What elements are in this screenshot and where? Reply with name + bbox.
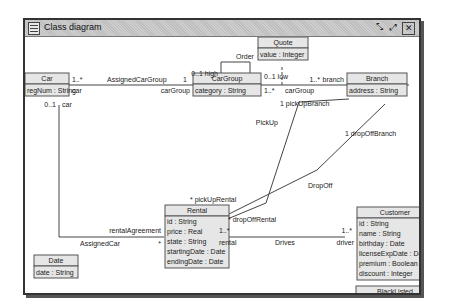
svg-text:discount : Integer: discount : Integer (359, 270, 413, 278)
svg-text:1: 1 (183, 76, 187, 83)
svg-text:1 dropOffBranch: 1 dropOffBranch (345, 130, 396, 138)
svg-text:AssignedCarGroup: AssignedCarGroup (107, 76, 167, 84)
diagram-canvas[interactable]: Car regNum : String CarGroup category : … (25, 37, 419, 293)
svg-text:category : String: category : String (195, 87, 246, 95)
svg-text:car: car (62, 101, 72, 108)
restore-icon[interactable]: ⤡ (374, 22, 385, 33)
title-bar[interactable]: Class diagram ⤡ ⤢ ✕ (25, 20, 419, 37)
svg-text:Customer: Customer (380, 209, 411, 216)
class-blacklisted[interactable]: BlackListed blackListedDate : Date (356, 286, 419, 293)
svg-text:price : Real: price : Real (167, 228, 203, 236)
svg-text:birthday : Date: birthday : Date (359, 240, 405, 248)
svg-text:AssignedCar: AssignedCar (80, 240, 121, 248)
class-rental[interactable]: Rental id : String price : Real state : … (165, 205, 229, 268)
svg-text:DropOff: DropOff (308, 182, 332, 190)
svg-text:driver: driver (336, 239, 354, 246)
svg-text:1..*: 1..* (264, 87, 275, 94)
svg-text:Branch: Branch (366, 75, 388, 82)
svg-text:state : String: state : String (167, 238, 206, 246)
maximize-icon[interactable]: ⤢ (388, 22, 399, 33)
class-date[interactable]: Date date : String (34, 255, 78, 278)
svg-text:1..*: 1..* (219, 227, 230, 234)
close-icon[interactable]: ✕ (402, 22, 415, 35)
svg-text:* pickUpRental: * pickUpRental (190, 196, 237, 204)
svg-text:regNum : String: regNum : String (27, 87, 76, 95)
svg-text:value : Integer: value : Integer (260, 51, 305, 59)
class-quote[interactable]: Quote value : Integer (258, 37, 308, 60)
svg-text:1..*: 1..* (309, 76, 320, 83)
svg-text:0..1: 0..1 (44, 101, 56, 108)
svg-text:1..*: 1..* (341, 227, 352, 234)
svg-text:1 pickUpBranch: 1 pickUpBranch (280, 100, 330, 108)
window-title: Class diagram (44, 22, 102, 32)
svg-text:* dropOffRental: * dropOffRental (228, 216, 277, 224)
svg-text:date : String: date : String (36, 269, 74, 277)
svg-text:id : String: id : String (167, 218, 197, 226)
svg-text:1..*: 1..* (72, 76, 83, 83)
svg-text:branch: branch (323, 76, 345, 83)
svg-text:premium : Boolean: premium : Boolean (359, 260, 418, 268)
svg-text:Drives: Drives (275, 239, 295, 246)
svg-text:BlackListed: BlackListed (377, 288, 413, 293)
svg-text:rental: rental (219, 239, 237, 246)
svg-text:0..1 low: 0..1 low (264, 73, 289, 80)
svg-text:car: car (72, 87, 82, 94)
svg-text:Quote: Quote (273, 39, 292, 47)
class-diagram-window: Class diagram ⤡ ⤢ ✕ (23, 18, 421, 295)
svg-text:carGroup: carGroup (285, 87, 314, 95)
svg-text:endingDate : Date: endingDate : Date (167, 258, 224, 266)
svg-text:PickUp: PickUp (256, 119, 278, 127)
svg-text:rentalAgreement: rentalAgreement (109, 227, 161, 235)
svg-text:startingDate : Date: startingDate : Date (167, 248, 225, 256)
class-branch[interactable]: Branch address : String (347, 73, 407, 96)
class-customer[interactable]: Customer id : String name : String birth… (357, 207, 419, 280)
svg-text:Order: Order (236, 53, 255, 60)
svg-text:name : String: name : String (359, 230, 401, 238)
svg-text:*: * (158, 240, 161, 247)
svg-text:address : String: address : String (349, 87, 398, 95)
svg-text:Rental: Rental (187, 207, 208, 214)
class-car[interactable]: Car regNum : String (25, 73, 76, 96)
svg-text:0..1 high: 0..1 high (191, 70, 218, 78)
svg-text:carGroup: carGroup (161, 87, 190, 95)
svg-text:licenseExpDate : Date: licenseExpDate : Date (359, 250, 419, 258)
diagram-icon (28, 22, 40, 35)
svg-text:id : String: id : String (359, 220, 389, 228)
svg-text:Date: Date (49, 257, 64, 264)
svg-text:Car: Car (41, 75, 53, 82)
